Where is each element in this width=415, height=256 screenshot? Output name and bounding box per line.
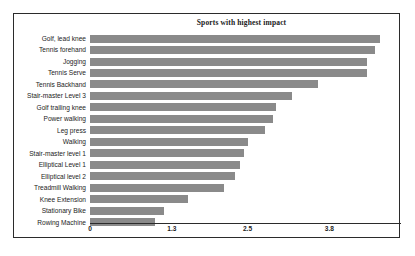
bar	[90, 161, 240, 169]
bar	[90, 69, 367, 77]
bar	[90, 195, 188, 203]
bar-category-label: Treadmill Walking	[34, 182, 86, 193]
bar	[90, 126, 265, 134]
x-tick-label: 0	[88, 225, 92, 232]
x-tick-label: 3.8	[325, 225, 334, 232]
x-tick-label: 1.3	[167, 225, 176, 232]
bar-category-label: Tennis Serve	[48, 67, 86, 78]
bar-row: Stationary Bike	[90, 205, 400, 216]
bar-category-label: Knee Extension	[40, 194, 86, 205]
bar-row: Knee Extension	[90, 194, 400, 205]
bar-row: Stair-master Level 3	[90, 90, 400, 101]
bar-category-label: Power walking	[43, 113, 86, 124]
bar	[90, 46, 375, 54]
bar	[90, 172, 235, 180]
bar-category-label: Golf trailing knee	[37, 102, 86, 113]
bar-category-label: Elliptical Level 1	[39, 159, 86, 170]
bar	[90, 115, 273, 123]
bar	[90, 92, 292, 100]
bar-category-label: Tennis forehand	[39, 44, 86, 55]
bar	[90, 207, 164, 215]
bar-row: Golf trailing knee	[90, 102, 400, 113]
bar	[90, 184, 224, 192]
bar-row: Walking	[90, 136, 400, 147]
bar-category-label: Stair-master level 1	[29, 148, 86, 159]
plot-area: Golf, lead kneeTennis forehandJoggingTen…	[90, 33, 400, 223]
bar-category-label: Golf, lead knee	[42, 33, 86, 44]
bar-row: Golf, lead knee	[90, 33, 400, 44]
bar	[90, 80, 318, 88]
bar-category-label: Tennis Backhand	[36, 79, 86, 90]
bar-category-label: Leg press	[57, 125, 86, 136]
bar-row: Tennis forehand	[90, 44, 400, 55]
bar	[90, 35, 380, 43]
bar-row: Tennis Serve	[90, 67, 400, 78]
bar-category-label: Rowing Machine	[37, 217, 86, 228]
bar	[90, 138, 248, 146]
bar-category-label: Stair-master Level 3	[27, 90, 86, 101]
bar-category-label: Elliptical level 2	[41, 171, 86, 182]
bar-row: Elliptical Level 1	[90, 159, 400, 170]
bar-row: Stair-master level 1	[90, 148, 400, 159]
bar-category-label: Jogging	[63, 56, 86, 67]
bar-row: Elliptical level 2	[90, 171, 400, 182]
bar-row: Tennis Backhand	[90, 79, 400, 90]
x-axis-line	[90, 223, 401, 224]
bar-row: Treadmill Walking	[90, 182, 400, 193]
bar-row: Power walking	[90, 113, 400, 124]
chart-frame: Sports with highest impact Golf, lead kn…	[13, 13, 400, 238]
bar-row: Jogging	[90, 56, 400, 67]
bar	[90, 103, 276, 111]
bar	[90, 149, 244, 157]
x-tick-label: 2.5	[243, 225, 252, 232]
bar	[90, 58, 367, 66]
chart-title: Sports with highest impact	[14, 18, 399, 27]
bar-category-label: Stationary Bike	[42, 205, 86, 216]
bar-category-label: Walking	[63, 136, 86, 147]
bar-row: Leg press	[90, 125, 400, 136]
